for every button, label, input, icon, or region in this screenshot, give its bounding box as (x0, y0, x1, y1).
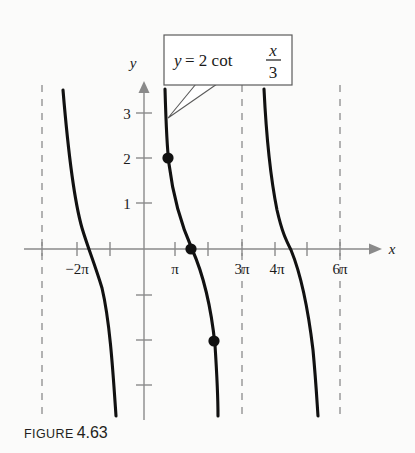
x-tick-label-neg2pi: −2π (65, 261, 89, 277)
x-axis-label: x (388, 241, 396, 257)
caption-word: FIGURE (24, 427, 74, 441)
equation-lhs: y (172, 51, 182, 70)
equation-fraction-denominator: 3 (269, 63, 278, 82)
point-3pi-over-2 (185, 243, 196, 254)
cot-branch-left (63, 90, 116, 416)
x-tick-label-4pi: 4π (269, 261, 285, 277)
y-axis-arrow-icon (139, 81, 150, 93)
x-axis-arrow-icon (369, 244, 382, 255)
x-tick-label-pi: π (171, 261, 179, 277)
point-9pi-over-4 (208, 335, 219, 346)
equation-fraction-numerator: x (268, 41, 277, 60)
y-axis (136, 81, 152, 420)
equation-operator: = 2 cot (185, 51, 233, 70)
y-axis-label: y (128, 55, 137, 71)
cot-branch-right (264, 89, 318, 416)
point-3pi-over-4 (162, 152, 173, 163)
x-tick-label-6pi: 6π (332, 261, 348, 277)
cotangent-graph: y x −2π π 3π 4π 6π 1 2 3 y = 2 cot x 3 (0, 0, 415, 453)
y-tick-label-2: 2 (123, 151, 131, 167)
figure-caption: FIGURE4.63 (24, 424, 108, 442)
y-tick-label-3: 3 (123, 106, 131, 122)
x-tick-label-3pi: 3π (234, 261, 250, 277)
x-axis (24, 242, 382, 256)
figure-container: y x −2π π 3π 4π 6π 1 2 3 y = 2 cot x 3 F… (0, 0, 415, 453)
callout-pointer (168, 84, 217, 118)
caption-number: 4.63 (74, 424, 108, 441)
y-tick-label-1: 1 (123, 196, 131, 212)
